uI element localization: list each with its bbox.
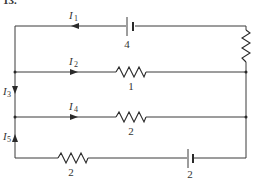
current-i4-label: I 4	[68, 100, 78, 114]
battery-4-label: 4	[124, 38, 130, 50]
junction-dot	[245, 71, 248, 74]
current-i3-label: I 3	[2, 85, 11, 99]
resistor-2	[116, 112, 146, 122]
svg-text:1: 1	[74, 14, 78, 23]
current-i2-label: I 2	[68, 55, 78, 69]
arrow-left-icon	[71, 23, 79, 29]
resistor-2-label: 2	[128, 125, 134, 137]
svg-text:5: 5	[7, 135, 11, 144]
junction-dot	[14, 71, 17, 74]
svg-text:4: 4	[74, 105, 78, 114]
arrow-down-icon	[12, 86, 18, 94]
junction-dot	[245, 116, 248, 119]
arrow-right-icon	[70, 69, 78, 75]
junction-dot	[14, 116, 17, 119]
current-i5-label: I 5	[2, 130, 11, 144]
bottom-resistor-label: 2	[68, 166, 74, 178]
arrow-right-icon	[70, 114, 78, 120]
bottom-branch: 2 2	[15, 149, 246, 180]
bottom-resistor	[58, 153, 88, 163]
svg-text:2: 2	[74, 60, 78, 69]
resistor-1-label: 1	[128, 80, 134, 92]
bottom-battery-label: 2	[187, 168, 193, 180]
branch-2: I 2 1	[14, 55, 248, 92]
svg-text:3: 3	[7, 90, 11, 99]
resistor-1	[116, 67, 146, 77]
branch-4: I 4 2	[14, 100, 248, 137]
right-resistor	[242, 30, 250, 62]
circuit-diagram: 13. 4 I 1 I 2 1 I 3	[0, 0, 253, 187]
question-number: 13.	[3, 0, 17, 6]
current-i1-label: I 1	[68, 9, 78, 23]
arrow-up-icon	[12, 134, 18, 142]
top-branch: 4 I 1	[15, 9, 246, 50]
